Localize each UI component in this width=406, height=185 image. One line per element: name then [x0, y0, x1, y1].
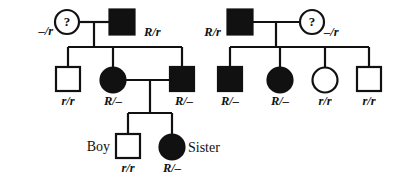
open-square-symbol-ii7	[357, 67, 381, 91]
filled-circle-symbol-iii2	[160, 135, 185, 160]
individual-i2[interactable]: R/r	[110, 10, 161, 40]
pedigree-chart: ? –/r R/r R/r ? –/r r/r	[0, 0, 406, 185]
filled-circle-symbol-ii2	[101, 68, 126, 93]
genotype-label-ii6: r/r	[318, 94, 331, 108]
genotype-label-iii2: R/–	[162, 161, 182, 175]
name-label-sister: Sister	[188, 140, 220, 155]
genotype-label-i3: R/r	[203, 25, 221, 39]
individual-i4[interactable]: ? –/r	[300, 10, 339, 39]
genotype-label-i4: –/r	[323, 25, 339, 39]
individual-i1[interactable]: ? –/r	[37, 10, 79, 38]
genotype-label-ii5: R/–	[270, 94, 290, 108]
individual-iii2[interactable]: Sister R/–	[160, 135, 221, 176]
genotype-label-i2: R/r	[143, 25, 161, 39]
genotype-label-ii3: R/–	[174, 94, 194, 108]
genotype-label-iii1: r/r	[121, 161, 134, 175]
filled-circle-symbol-ii5	[268, 68, 293, 93]
individual-ii5[interactable]: R/–	[268, 68, 293, 109]
open-square-symbol-iii1	[116, 134, 140, 158]
open-circle-symbol-ii6	[313, 68, 338, 93]
genotype-label-ii1: r/r	[61, 94, 74, 108]
individual-ii2[interactable]: R/–	[101, 68, 126, 109]
individual-ii3[interactable]: R/–	[170, 67, 194, 108]
filled-square-symbol-ii3	[170, 67, 194, 91]
individual-ii1[interactable]: r/r	[56, 67, 80, 108]
individual-ii6[interactable]: r/r	[313, 68, 338, 109]
genotype-label-i1: –/r	[37, 24, 53, 38]
genotype-label-ii7: r/r	[362, 94, 375, 108]
individual-i3[interactable]: R/r	[203, 10, 252, 40]
open-square-symbol-ii1	[56, 67, 80, 91]
question-mark-i1: ?	[64, 14, 71, 29]
individual-iii1[interactable]: Boy r/r	[87, 134, 140, 175]
individual-ii7[interactable]: r/r	[357, 67, 381, 108]
name-label-boy: Boy	[87, 139, 110, 154]
genotype-label-ii2: R/–	[103, 94, 123, 108]
question-mark-i4: ?	[309, 14, 316, 29]
individual-ii4[interactable]: R/–	[218, 67, 242, 108]
pedigree-svg-canvas: ? –/r R/r R/r ? –/r r/r	[0, 0, 406, 185]
filled-square-symbol-ii4	[218, 67, 242, 91]
genotype-label-ii4: R/–	[220, 94, 240, 108]
filled-square-symbol-i3	[228, 10, 253, 35]
filled-square-symbol-i2	[110, 10, 135, 35]
